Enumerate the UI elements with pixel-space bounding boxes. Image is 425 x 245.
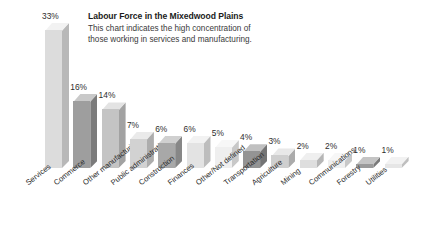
bar-value-label: 3%: [268, 136, 280, 146]
category-label: Mining: [279, 166, 302, 187]
bar-value-label: 4%: [240, 132, 252, 142]
bar-group[interactable]: [385, 157, 409, 168]
bar-value-label: 14%: [99, 90, 116, 100]
plot-area: 33%Services16%Commerce14%Other manufactu…: [0, 0, 425, 245]
bar-value-label: 33%: [42, 11, 59, 21]
bar-value-label: 2%: [325, 141, 337, 151]
bar-value-label: 1%: [382, 145, 394, 155]
bar-front-face: [385, 164, 402, 168]
bar-value-label: 5%: [212, 128, 224, 138]
bar-value-label: 7%: [127, 120, 139, 130]
category-label: Utilities: [364, 165, 389, 187]
bar-value-label: 2%: [297, 141, 309, 151]
bar-group[interactable]: [45, 23, 69, 168]
category-label: Services: [24, 162, 52, 187]
bar-value-label: 6%: [155, 124, 167, 134]
bar-value-label: 1%: [353, 145, 365, 155]
bar-group[interactable]: [73, 94, 97, 168]
bar-side-face: [62, 23, 69, 168]
bar-value-label: 6%: [184, 124, 196, 134]
bar-side-face: [90, 94, 97, 168]
bar-front-face: [300, 160, 317, 168]
chart-container: Labour Force in the Mixedwood Plains Thi…: [0, 0, 425, 245]
bar-group[interactable]: [300, 153, 324, 168]
bar-front-face: [45, 30, 62, 168]
bar-value-label: 16%: [70, 82, 87, 92]
